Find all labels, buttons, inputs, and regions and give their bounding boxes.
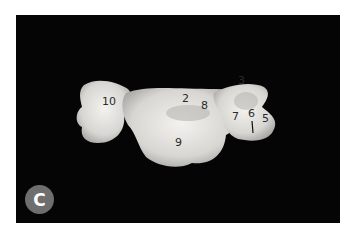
label-2: 2 [182, 93, 189, 104]
label-10: 10 [102, 96, 116, 107]
label-7: 7 [232, 111, 239, 122]
panel-label: C [33, 190, 45, 210]
label-6: 6 [248, 108, 255, 119]
label-3: 3 [238, 75, 245, 86]
label-9: 9 [175, 137, 182, 148]
bone-specimen [16, 15, 340, 223]
specimen-photo: 10 2 8 3 7 6 5 9 C [16, 15, 340, 223]
label-8: 8 [201, 100, 208, 111]
panel-label-badge: C [25, 185, 54, 214]
label-5: 5 [262, 113, 269, 124]
